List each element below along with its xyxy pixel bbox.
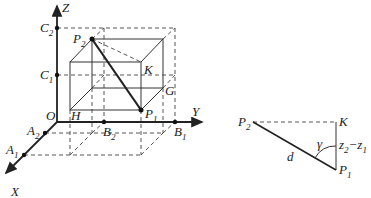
d-label: d: [287, 149, 294, 164]
tri-p1-label: P1: [338, 162, 351, 180]
points: [22, 26, 177, 157]
g-label: G: [165, 83, 175, 98]
p2-label: P2: [72, 31, 86, 49]
origin-label: O: [46, 108, 56, 123]
c1-label: C1: [40, 67, 53, 85]
a1-label: A1: [5, 142, 18, 160]
coordinate-diagram: Z Y X O C2 C1 P2 P1 K G H A2 A1 B2 B1 P2…: [0, 0, 371, 198]
segment-p1p2: [92, 39, 141, 110]
z-label: Z: [62, 0, 70, 15]
b1-label: B1: [174, 124, 186, 142]
k-label: K: [143, 62, 154, 77]
side-label: z2−z1: [338, 137, 367, 155]
b2-label: B2: [103, 124, 116, 142]
projection-lines: [24, 28, 175, 155]
tri-p2-label: P2: [237, 114, 251, 132]
tri-k-label: K: [338, 114, 349, 129]
triangle-figure: P2 K P1 d γ z2−z1: [237, 114, 367, 180]
x-label: X: [10, 184, 20, 198]
y-label: Y: [192, 104, 201, 119]
gamma-label: γ: [317, 136, 323, 151]
h-label: H: [70, 108, 81, 123]
a2-label: A2: [26, 123, 40, 141]
c2-label: C2: [40, 20, 54, 38]
